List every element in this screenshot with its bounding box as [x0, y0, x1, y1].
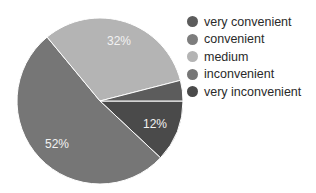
- legend-item-very-inconvenient: very inconvenient: [187, 83, 301, 101]
- legend-label: very convenient: [204, 15, 292, 29]
- slice-label-medium: 32%: [107, 34, 131, 48]
- legend-item-medium: medium: [187, 48, 301, 66]
- chart-legend: very convenient convenient medium inconv…: [187, 13, 301, 101]
- legend-dot-icon: [187, 69, 198, 80]
- legend-item-very-convenient: very convenient: [187, 13, 301, 31]
- legend-label: medium: [204, 50, 248, 64]
- legend-label: inconvenient: [204, 67, 274, 81]
- legend-item-convenient: convenient: [187, 31, 301, 49]
- legend-dot-icon: [187, 16, 198, 27]
- legend-dot-icon: [187, 51, 198, 62]
- legend-dot-icon: [187, 86, 198, 97]
- legend-label: convenient: [204, 32, 264, 46]
- slice-label-very-inconvenient: 12%: [143, 117, 167, 131]
- slice-label-inconvenient: 52%: [45, 137, 69, 151]
- legend-item-inconvenient: inconvenient: [187, 66, 301, 84]
- legend-dot-icon: [187, 34, 198, 45]
- legend-label: very inconvenient: [204, 85, 301, 99]
